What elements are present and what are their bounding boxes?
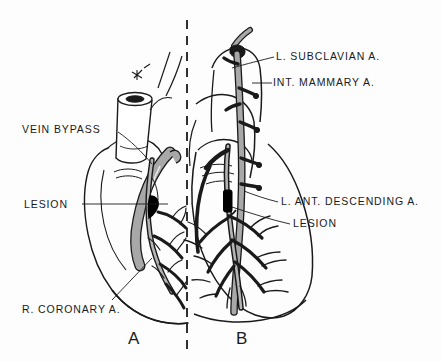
- lad-lesion-occlusion: [224, 190, 233, 212]
- heart-apex-right: [194, 300, 306, 322]
- atrial-appendage-left: [114, 169, 142, 179]
- panel-letter-a: A: [128, 330, 139, 347]
- pulmonary-trunk-left: [101, 170, 126, 270]
- aorta-stump: [116, 98, 152, 163]
- panel-a-group: [84, 52, 188, 324]
- medical-illustration-figure: VEIN BYPASS LESION R. CORONARY A. L. SUB…: [0, 0, 442, 362]
- label-vein-bypass: VEIN BYPASS: [22, 124, 101, 135]
- leader-r-coronary: [112, 258, 152, 300]
- aorta-stump-lumen-inner: [126, 96, 144, 102]
- leader-lad: [244, 191, 278, 202]
- great-vessel-stub-1: [158, 52, 170, 88]
- leader-lines: [82, 57, 290, 300]
- coronary-lesion-occlusion-left: [148, 196, 158, 218]
- label-int-mammary-a: INT. MAMMARY A.: [273, 77, 375, 88]
- great-vessel-stub-2: [166, 56, 182, 96]
- label-lesion-right: LESION: [293, 218, 337, 229]
- label-l-subclavian-a: L. SUBCLAVIAN A.: [276, 51, 380, 62]
- label-r-coronary-a: R. CORONARY A.: [22, 304, 121, 315]
- ascending-aorta: [211, 70, 214, 132]
- panel-b-group: [184, 30, 313, 322]
- panel-letter-b: B: [236, 330, 247, 347]
- vessel-ligature-mark: [132, 64, 150, 80]
- label-l-ant-descending-a: L. ANT. DESCENDING A.: [281, 196, 419, 207]
- label-lesion-left: LESION: [24, 199, 68, 210]
- great-vessel-branch: [150, 98, 172, 111]
